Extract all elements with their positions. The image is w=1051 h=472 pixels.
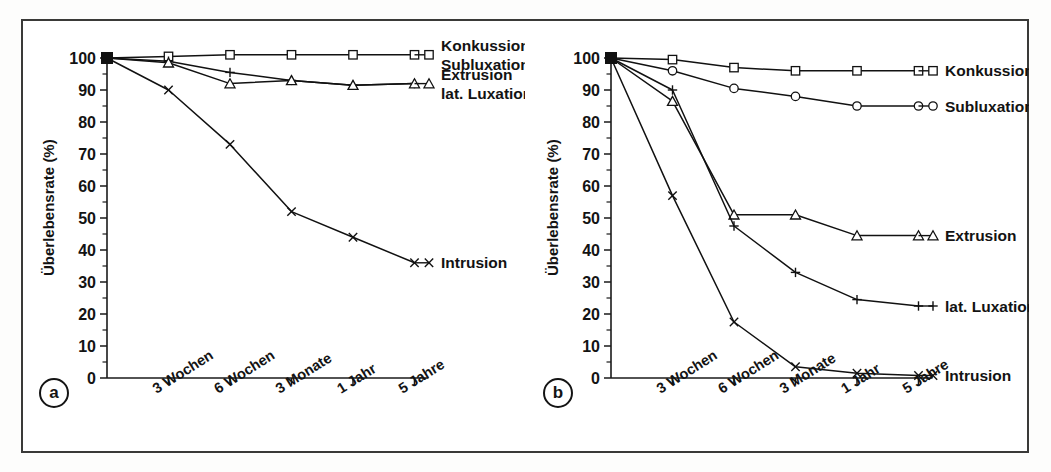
panel-b-tag: b (543, 378, 573, 408)
x-category-label: 6 Wochen (211, 347, 277, 397)
data-point-marker (287, 207, 295, 215)
data-point-marker (668, 85, 677, 94)
y-tick-label: 40 (78, 242, 96, 259)
series-line (107, 55, 415, 58)
legend-marker (425, 51, 433, 59)
data-point-marker (668, 191, 676, 199)
y-tick-label: 60 (582, 178, 600, 195)
data-point-marker (730, 318, 738, 326)
y-tick-label: 60 (78, 178, 96, 195)
data-point-marker (852, 295, 861, 304)
series-line (107, 58, 415, 85)
legend-marker (929, 67, 937, 75)
x-category-label: 6 Wochen (715, 347, 781, 397)
panel-b: Überlebensrate (%)0102030405060708090100… (525, 19, 1029, 453)
series-legend-label: Konkussion (945, 62, 1029, 79)
panel-a: Überlebensrate (%)0102030405060708090100… (21, 19, 525, 453)
data-point-marker (287, 51, 295, 59)
data-point-marker (730, 63, 738, 71)
panel-b-chart: Überlebensrate (%)0102030405060708090100… (525, 19, 1029, 453)
series-legend-label: Extrusion (945, 227, 1016, 244)
data-point-marker (853, 102, 861, 110)
series-line (611, 58, 919, 71)
legend-marker (928, 301, 937, 310)
y-tick-label: 20 (78, 306, 96, 323)
series-3 (611, 58, 924, 240)
series-legend-label: Intrusion (441, 254, 507, 271)
y-tick-label: 70 (582, 146, 600, 163)
series-2 (611, 58, 923, 110)
data-point-marker (668, 67, 676, 75)
series-3 (107, 58, 420, 89)
series-legend: KonkussionSubluxationExtrusionlat. Luxat… (919, 62, 1030, 384)
data-point-marker (226, 51, 234, 59)
y-tick-label: 80 (78, 114, 96, 131)
data-point-marker (791, 92, 799, 100)
y-tick-label: 70 (78, 146, 96, 163)
series-legend-label: Extrusion (441, 66, 512, 83)
x-category-label: 3 Monate (777, 350, 839, 397)
y-tick-label: 50 (78, 210, 96, 227)
y-tick-label: 20 (582, 306, 600, 323)
data-point-marker (226, 140, 234, 148)
x-category-label: 3 Wochen (654, 347, 720, 397)
data-point-marker (349, 51, 357, 59)
series-1 (611, 55, 923, 75)
y-tick-label: 50 (582, 210, 600, 227)
data-point-marker (668, 55, 676, 63)
series-legend-label: Subluxation (945, 98, 1029, 115)
y-tick-label: 30 (78, 274, 96, 291)
y-tick-label: 90 (582, 82, 600, 99)
series-legend-label: lat. Luxation (441, 85, 525, 102)
y-tick-label: 30 (582, 274, 600, 291)
y-tick-label: 0 (87, 370, 96, 387)
y-tick-label: 100 (573, 50, 600, 67)
series-line (611, 58, 919, 306)
y-axis-title: Überlebensrate (%) (544, 139, 561, 276)
y-tick-label: 80 (582, 114, 600, 131)
y-tick-label: 40 (582, 242, 600, 259)
y-tick-label: 10 (78, 338, 96, 355)
series-legend-label: Intrusion (945, 367, 1011, 384)
data-point-marker (225, 68, 234, 77)
panel-a-tag: a (39, 378, 69, 408)
y-tick-label: 0 (591, 370, 600, 387)
series-legend-label: Konkussion (441, 37, 525, 54)
y-tick-label: 10 (582, 338, 600, 355)
panel-a-chart: Überlebensrate (%)0102030405060708090100… (21, 19, 525, 453)
series-1 (107, 51, 419, 61)
data-point-marker (853, 67, 861, 75)
x-category-label: 3 Monate (273, 350, 335, 397)
x-axis-categories: 3 Wochen6 Wochen3 Monate1 Jahr5 Jahre (150, 347, 448, 397)
figure-root: Überlebensrate (%)0102030405060708090100… (0, 0, 1051, 472)
origin-marker (606, 53, 617, 64)
data-point-marker (791, 67, 799, 75)
series-4 (107, 58, 419, 267)
y-axis-title: Überlebensrate (%) (40, 139, 57, 276)
series-4 (611, 58, 923, 311)
data-point-marker (164, 86, 172, 94)
series-legend-label: lat. Luxation (945, 298, 1029, 315)
x-category-label: 5 Jahre (396, 356, 448, 396)
y-axis-ticks: 0102030405060708090100 (573, 50, 611, 387)
y-tick-label: 100 (69, 50, 96, 67)
series-line (611, 58, 919, 236)
y-tick-label: 90 (78, 82, 96, 99)
data-point-marker (730, 84, 738, 92)
x-axis-categories: 3 Wochen6 Wochen3 Monate1 Jahr5 Jahre (654, 347, 952, 397)
x-category-label: 3 Wochen (150, 347, 216, 397)
y-axis-ticks: 0102030405060708090100 (69, 50, 107, 387)
series-legend: KonkussionSubluxationExtrusionlat. Luxat… (415, 37, 526, 271)
series-line (107, 58, 415, 263)
origin-marker (102, 53, 113, 64)
data-point-marker (349, 233, 357, 241)
x-category-label: 5 Jahre (900, 356, 952, 396)
legend-marker (929, 102, 937, 110)
